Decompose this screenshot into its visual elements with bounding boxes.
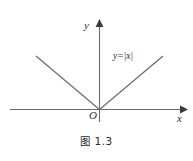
- figure-caption: 图 1.3: [0, 133, 193, 148]
- curve-right-branch: [100, 56, 164, 110]
- figure-container: y x O y=|x| 图 1.3: [0, 0, 193, 161]
- x-axis-label: x: [177, 113, 182, 124]
- y-axis-arrow-icon: [96, 19, 104, 27]
- curve-equation-label: y=|x|: [113, 52, 133, 62]
- origin-label: O: [89, 110, 97, 121]
- y-axis-label: y: [84, 20, 89, 31]
- curve-left-branch: [36, 56, 100, 110]
